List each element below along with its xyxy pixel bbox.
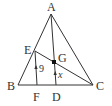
parallel-arrow-ef-icon	[34, 65, 37, 69]
label-a: A	[47, 0, 56, 14]
measure-gd: x	[57, 69, 63, 80]
label-b: B	[7, 79, 15, 93]
label-e: E	[24, 43, 31, 57]
label-c: C	[96, 79, 104, 93]
measure-ef: 9	[39, 63, 44, 74]
point-g-marker	[52, 60, 56, 64]
parallel-arrow-gd-icon	[54, 71, 57, 75]
label-d: D	[52, 90, 61, 104]
triangle-diagram: A B C D E F G 9 x	[0, 0, 112, 106]
label-f: F	[33, 90, 40, 104]
segment-ab	[18, 14, 51, 85]
label-g: G	[58, 51, 67, 65]
